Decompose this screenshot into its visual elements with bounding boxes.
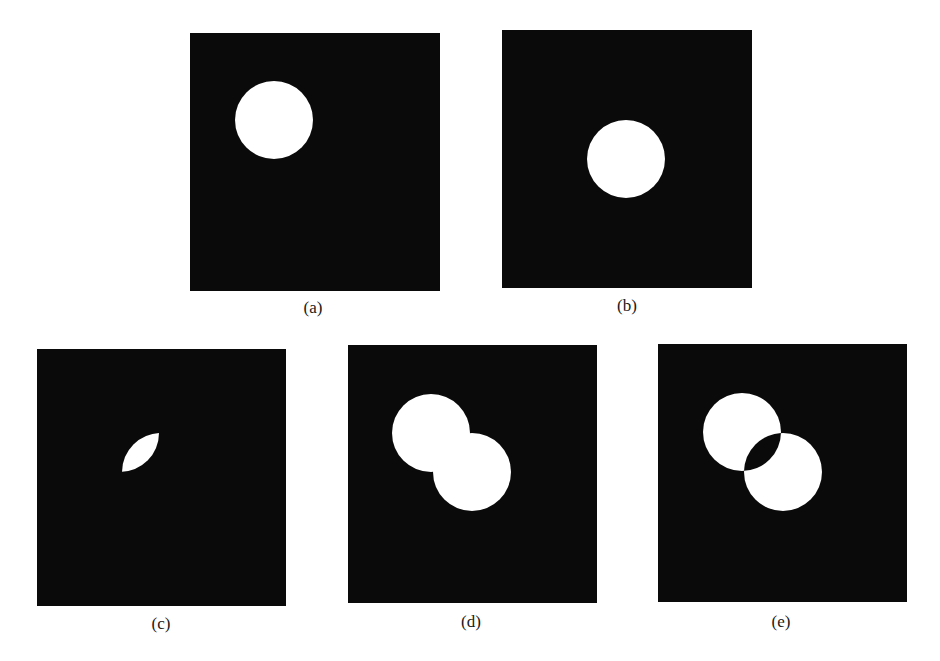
panel-b-image bbox=[502, 30, 752, 288]
panel-c-image bbox=[37, 349, 286, 606]
disk-b bbox=[587, 120, 665, 198]
panel-a-image bbox=[190, 33, 440, 291]
panel-e bbox=[658, 344, 907, 602]
panel-d bbox=[348, 345, 597, 603]
caption-c: (c) bbox=[131, 614, 191, 634]
panel-e-image bbox=[658, 344, 907, 602]
panel-a bbox=[190, 33, 440, 291]
caption-e: (e) bbox=[751, 612, 811, 632]
caption-b: (b) bbox=[597, 296, 657, 316]
union-disk-2 bbox=[433, 433, 511, 511]
caption-d: (d) bbox=[441, 612, 501, 632]
disk-a bbox=[235, 81, 313, 159]
panel-c bbox=[37, 349, 286, 606]
panel-d-image bbox=[348, 345, 597, 603]
caption-a: (a) bbox=[283, 298, 343, 318]
panel-b bbox=[502, 30, 752, 288]
